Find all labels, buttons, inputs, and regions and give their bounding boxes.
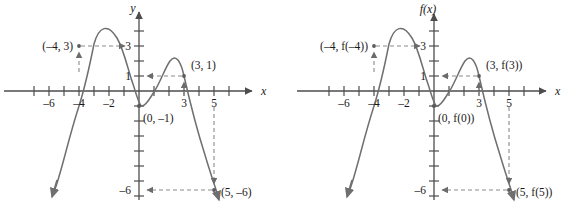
function-curve xyxy=(350,28,513,196)
y-tick-label-neg6: –6 xyxy=(414,184,427,196)
point-label-neg4: (–4, 3) xyxy=(42,40,73,53)
dot-0 xyxy=(137,104,141,108)
y-tick-label-3: 3 xyxy=(420,40,426,52)
function-curve xyxy=(55,28,218,196)
y-tick-label-3: 3 xyxy=(125,40,131,52)
dot-3 xyxy=(477,74,481,78)
y-tick-label-1: 1 xyxy=(125,70,131,82)
right-graph-svg: x f(x) –6 –4 –2 3 5 3 1 –6 (–4, f(–4)) (… xyxy=(288,0,575,205)
x-tick-label-neg4: –4 xyxy=(367,97,380,109)
point-label-neg4: (–4, f(–4)) xyxy=(320,40,368,53)
x-tick-label-neg6: –6 xyxy=(337,97,350,109)
dot-neg4 xyxy=(372,44,376,48)
curve-right-arrow xyxy=(216,190,219,200)
curve-left-arrow xyxy=(52,180,57,197)
point-label-5: (5, f(5)) xyxy=(516,186,553,199)
x-tick-label-3: 3 xyxy=(476,97,482,109)
dot-neg4 xyxy=(77,44,81,48)
x-tick-label-neg2: –2 xyxy=(102,97,115,109)
point-label-3: (3, f(3)) xyxy=(486,59,523,72)
x-tick-label-5: 5 xyxy=(506,97,512,109)
dot-0 xyxy=(432,104,436,108)
dot-5 xyxy=(212,188,216,192)
y-tick-label-neg6: –6 xyxy=(119,184,132,196)
point-label-5: (5, –6) xyxy=(221,186,252,199)
figure-container: x y –6 –4 –2 3 5 3 1 –6 (–4, 3) (3, 1) (… xyxy=(0,0,575,205)
curve-right-arrow xyxy=(511,190,514,200)
left-graph-svg: x y –6 –4 –2 3 5 3 1 –6 (–4, 3) (3, 1) (… xyxy=(0,0,288,205)
x-tick-label-neg6: –6 xyxy=(42,97,55,109)
y-axis-label: y xyxy=(129,1,136,15)
point-label-0: (0, f(0)) xyxy=(438,112,475,125)
panel-right-function-labels: x f(x) –6 –4 –2 3 5 3 1 –6 (–4, f(–4)) (… xyxy=(288,0,575,205)
x-tick-label-3: 3 xyxy=(181,97,187,109)
x-axis-label: x xyxy=(260,84,267,98)
x-tick-label-neg4: –4 xyxy=(72,97,85,109)
dot-3 xyxy=(182,74,186,78)
point-label-0: (0, –1) xyxy=(143,112,174,125)
x-tick-label-5: 5 xyxy=(211,97,217,109)
x-tick-label-neg2: –2 xyxy=(397,97,410,109)
dot-5 xyxy=(507,188,511,192)
curve-left-arrow xyxy=(347,180,352,197)
x-axis-label: x xyxy=(554,84,561,98)
panel-left-coordinate-labels: x y –6 –4 –2 3 5 3 1 –6 (–4, 3) (3, 1) (… xyxy=(0,0,288,205)
point-label-3: (3, 1) xyxy=(191,59,216,72)
y-axis-label: f(x) xyxy=(420,2,437,16)
y-tick-label-1: 1 xyxy=(420,70,426,82)
